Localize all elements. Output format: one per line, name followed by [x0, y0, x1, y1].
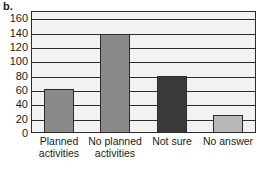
bar	[213, 115, 243, 133]
bar	[44, 89, 74, 133]
x-tick-label: Planned activities	[31, 135, 87, 159]
x-tick-label: No answer	[200, 135, 256, 147]
x-axis-category-labels: Planned activitiesNo planned activitiesN…	[31, 135, 256, 167]
y-tick-label: 0	[22, 128, 28, 139]
y-tick-label: 80	[16, 70, 28, 81]
y-tick-label: 60	[16, 84, 28, 95]
y-tick-label: 120	[10, 41, 28, 52]
bar-chart-figure: b. 020406080100120140160 Planned activit…	[0, 0, 260, 169]
x-tick-label: No planned activities	[87, 135, 143, 159]
x-tick-label: Not sure	[144, 135, 200, 147]
bar-series	[31, 11, 256, 133]
y-tick-label: 20	[16, 113, 28, 124]
y-tick-label: 140	[10, 27, 28, 38]
y-tick-label: 40	[16, 99, 28, 110]
bar	[157, 76, 187, 133]
y-tick-label: 100	[10, 56, 28, 67]
y-axis: 020406080100120140160	[0, 11, 31, 133]
y-tick-label: 160	[10, 13, 28, 24]
bar	[100, 34, 130, 133]
